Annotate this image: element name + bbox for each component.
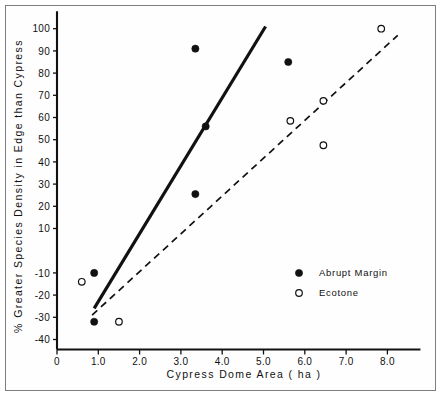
data-point-ecotone <box>378 25 385 32</box>
x-tick-label: 2.0 <box>132 356 147 367</box>
series-group <box>78 25 397 325</box>
legend-marker-open-circle-icon <box>296 290 303 297</box>
y-tick-label: 30 <box>38 179 50 190</box>
x-tick-label: 6.0 <box>297 356 312 367</box>
data-point-abrupt-margin <box>91 269 98 276</box>
x-axis-title: Cypress Dome Area ( ha ) <box>167 368 322 380</box>
data-point-abrupt-margin <box>202 123 209 130</box>
y-tick-label: 10 <box>38 223 50 234</box>
data-point-ecotone <box>78 278 85 285</box>
x-tick-label: 0 <box>54 356 60 367</box>
y-tick-label: 70 <box>38 90 50 101</box>
legend-label: Ecotone <box>319 287 359 298</box>
legend-group: Abrupt MarginEcotone <box>295 267 387 298</box>
axes-group: 100908070605040302010-10-20-30-4001.02.0… <box>32 11 420 367</box>
data-point-abrupt-margin <box>192 45 199 52</box>
y-tick-label: -20 <box>35 290 50 301</box>
x-tick-label: 7.0 <box>339 356 354 367</box>
y-tick-label: 100 <box>32 23 50 34</box>
y-tick-label: -10 <box>35 268 50 279</box>
fit-line-abrupt-margin <box>94 26 265 308</box>
x-tick-label: 5.0 <box>256 356 271 367</box>
x-tick-label: 3.0 <box>173 356 188 367</box>
y-tick-label: 80 <box>38 68 50 79</box>
y-tick-label: 60 <box>38 112 50 123</box>
data-point-ecotone <box>320 98 327 105</box>
figure-container: 100908070605040302010-10-20-30-4001.02.0… <box>0 0 441 396</box>
y-tick-label: 90 <box>38 46 50 57</box>
x-tick-label: 8.0 <box>380 356 395 367</box>
data-point-ecotone <box>320 142 327 149</box>
data-point-abrupt-margin <box>91 318 98 325</box>
legend-label: Abrupt Margin <box>319 267 388 278</box>
y-tick-label: 40 <box>38 157 50 168</box>
y-tick-label: -30 <box>35 312 50 323</box>
x-tick-label: 1.0 <box>91 356 106 367</box>
data-point-ecotone <box>116 318 123 325</box>
scatter-plot: 100908070605040302010-10-20-30-4001.02.0… <box>6 6 435 390</box>
y-tick-label: 20 <box>38 201 50 212</box>
y-tick-label: 50 <box>38 134 50 145</box>
data-point-abrupt-margin <box>285 58 292 65</box>
x-tick-label: 4.0 <box>215 356 230 367</box>
figure-frame: 100908070605040302010-10-20-30-4001.02.0… <box>5 5 436 391</box>
y-tick-label: -40 <box>35 334 50 345</box>
y-axis-title: % Greater Species Density in Edge than C… <box>12 39 24 333</box>
legend-marker-filled-circle-icon <box>295 269 302 276</box>
data-point-ecotone <box>287 118 294 125</box>
data-point-abrupt-margin <box>192 190 199 197</box>
